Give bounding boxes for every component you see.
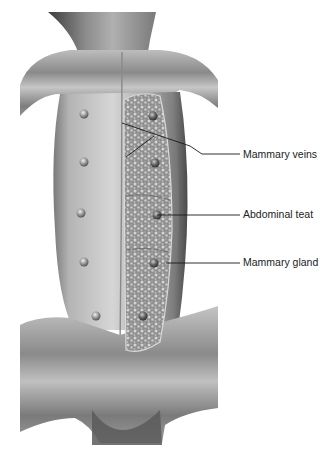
- mammary-gland-region: [124, 94, 172, 352]
- label-mammary-gland: Mammary gland: [243, 256, 318, 268]
- mammary-anatomy-illustration: [0, 0, 334, 459]
- neck: [48, 12, 156, 52]
- label-mammary-veins: Mammary veins: [243, 148, 317, 160]
- label-abdominal-teat: Abdominal teat: [243, 208, 313, 220]
